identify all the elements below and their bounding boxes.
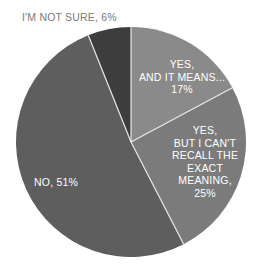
label-yes-recall: YES, BUT I CAN'T RECALL THE EXACT MEANIN… [165,124,245,199]
label-yes-recall-line4: EXACT [165,162,245,175]
label-yes-means-line2: AND IT MEANS... [132,71,232,84]
label-yes-means: YES, AND IT MEANS... 17% [132,58,232,96]
label-yes-means-line1: YES, [132,58,232,71]
label-yes-recall-line2: BUT I CAN'T [165,137,245,150]
label-not-sure: I'M NOT SURE, 6% [22,11,117,23]
label-yes-means-line3: 17% [132,83,232,96]
label-yes-recall-line5: MEANING, [165,174,245,187]
label-yes-recall-line6: 25% [165,187,245,200]
label-yes-recall-line1: YES, [165,124,245,137]
label-yes-recall-line3: RECALL THE [165,149,245,162]
label-no: NO, 51% [26,176,86,189]
